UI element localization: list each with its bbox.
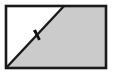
figure-canvas <box>0 0 113 74</box>
geometry-figure <box>0 0 113 74</box>
